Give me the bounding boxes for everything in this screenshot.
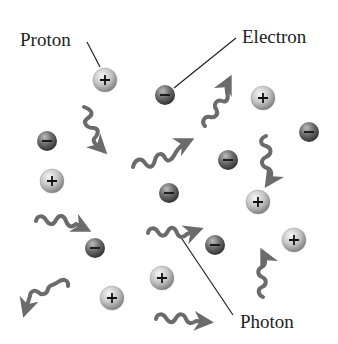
proton-particle bbox=[251, 86, 275, 110]
photons bbox=[25, 80, 271, 323]
photon-wave-icon bbox=[261, 136, 271, 183]
proton-particle bbox=[40, 169, 64, 193]
electron-particle bbox=[159, 183, 179, 203]
photon-wave-icon bbox=[258, 253, 266, 297]
photon-wave-icon bbox=[156, 314, 208, 323]
electron-particle bbox=[218, 150, 238, 170]
photon-wave-icon bbox=[84, 107, 103, 150]
electron-label: Electron bbox=[242, 27, 306, 46]
photon-wave-icon bbox=[36, 216, 86, 229]
proton-label: Proton bbox=[20, 30, 71, 49]
electron-particle bbox=[85, 238, 105, 258]
proton-leader-line bbox=[87, 42, 100, 67]
proton-particle bbox=[282, 228, 306, 252]
electron-particle bbox=[37, 131, 57, 151]
diagram-canvas bbox=[0, 0, 338, 344]
plasma-diagram: Proton Electron Photon bbox=[0, 0, 338, 344]
photon-label: Photon bbox=[240, 312, 294, 331]
electron-particle bbox=[299, 122, 319, 142]
photon-wave-icon bbox=[133, 141, 189, 167]
proton-particle bbox=[246, 190, 270, 214]
photon-wave-icon bbox=[25, 280, 68, 312]
proton-particle bbox=[150, 266, 174, 290]
proton-particle bbox=[93, 68, 117, 92]
photon-wave-icon bbox=[203, 80, 229, 126]
photon-wave-icon bbox=[148, 228, 198, 237]
electron-particle bbox=[205, 235, 225, 255]
electron-particle bbox=[155, 85, 175, 105]
proton-particle bbox=[100, 286, 124, 310]
